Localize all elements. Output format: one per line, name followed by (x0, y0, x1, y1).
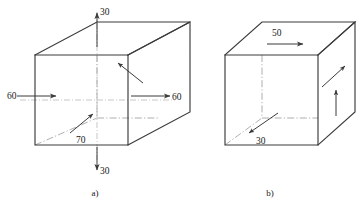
figure-root: 30 30 60 60 70 (0, 0, 359, 215)
diagram-b-top-load: 50 (267, 28, 303, 44)
diagram-a-cube-edges (35, 22, 190, 145)
cube-diagrams-svg: 30 30 60 60 70 (0, 0, 359, 215)
diagram-a-right-load: 60 (131, 92, 182, 102)
diagram-a-left-load: 60 (7, 91, 56, 101)
diagram-a-right-face-load (118, 63, 143, 83)
diagram-b-depth-load-label: 30 (256, 136, 266, 146)
diagram-a-left-load-label: 60 (7, 91, 17, 101)
diagram-b-caption: b) (266, 188, 274, 198)
diagram-b-hidden-edges (225, 55, 318, 145)
diagram-a-depth-load: 70 (70, 114, 93, 145)
diagram-b-right-face-load (322, 66, 345, 87)
diagram-a-top-load: 30 (97, 7, 110, 47)
diagram-a-top-load-label: 30 (100, 7, 110, 17)
diagram-a-depth-load-label: 70 (76, 135, 86, 145)
diagram-b: 50 30 b) (225, 22, 355, 198)
diagram-a-caption: a) (92, 188, 99, 198)
diagram-b-top-load-label: 50 (272, 28, 282, 38)
diagram-a-right-load-label: 60 (172, 92, 182, 102)
diagram-a: 30 30 60 60 70 (7, 7, 190, 198)
diagram-b-cube-edges (225, 22, 355, 145)
diagram-a-bottom-load: 30 (97, 147, 110, 176)
diagram-a-bottom-load-label: 30 (100, 166, 110, 176)
